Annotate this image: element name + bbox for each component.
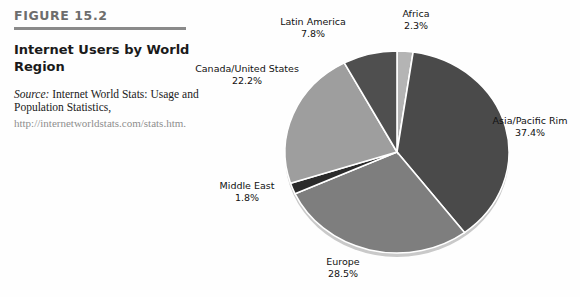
slice-label-text: Latin America bbox=[280, 16, 346, 27]
slice-label-africa: Africa 2.3% bbox=[388, 8, 444, 32]
slice-label-value: 7.8% bbox=[267, 28, 359, 40]
slice-label-value: 2.3% bbox=[388, 20, 444, 32]
slice-label-value: 28.5% bbox=[307, 268, 379, 280]
page-title: Internet Users by World Region bbox=[14, 41, 194, 75]
slice-label-canada-united-states: Canada/United States 22.2% bbox=[185, 63, 309, 87]
slice-label-text: Middle East bbox=[220, 180, 275, 191]
slice-label-value: 22.2% bbox=[185, 75, 309, 87]
pie-slice-group: Africa 2.3%Asia/Pacific Rim 37.4%Europe … bbox=[285, 51, 509, 253]
source-url: http://internetworldstats.com/stats.htm. bbox=[14, 116, 204, 130]
slice-label-text: Asia/Pacific Rim bbox=[493, 115, 568, 126]
figure-container: FIGURE 15.2 Internet Users by World Regi… bbox=[0, 0, 580, 297]
slice-label-text: Africa bbox=[402, 8, 429, 19]
slice-label-europe: Europe 28.5% bbox=[307, 256, 379, 280]
slice-label-asia-pacific-rim: Asia/Pacific Rim 37.4% bbox=[483, 115, 577, 139]
pie-chart-svg: Africa 2.3%Asia/Pacific Rim 37.4%Europe … bbox=[215, 0, 580, 297]
figure-number: FIGURE 15.2 bbox=[14, 8, 214, 23]
caption-panel: FIGURE 15.2 Internet Users by World Regi… bbox=[14, 8, 214, 130]
source-label: Source: bbox=[14, 88, 49, 100]
header-rule bbox=[14, 27, 186, 30]
pie-chart: Africa 2.3%Asia/Pacific Rim 37.4%Europe … bbox=[215, 0, 580, 297]
slice-label-value: 37.4% bbox=[483, 127, 577, 139]
slice-label-text: Europe bbox=[326, 256, 359, 267]
slice-label-value: 1.8% bbox=[205, 192, 289, 204]
slice-label-middle-east: Middle East 1.8% bbox=[205, 180, 289, 204]
slice-label-text: Canada/United States bbox=[195, 63, 299, 74]
slice-label-latin-america: Latin America 7.8% bbox=[267, 16, 359, 40]
source-note: Source: Internet World Stats: Usage and … bbox=[14, 88, 204, 130]
